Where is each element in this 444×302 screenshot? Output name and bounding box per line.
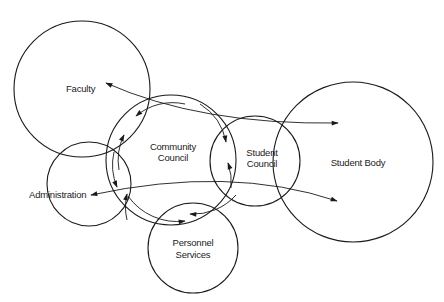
organization-diagram: Faculty Community Council Student Counci… bbox=[0, 0, 444, 302]
community-label: Community bbox=[150, 141, 197, 152]
administration-label: Administration bbox=[29, 189, 86, 200]
cc-to-administration-arrow bbox=[113, 152, 117, 187]
student-label: Student bbox=[246, 147, 278, 158]
community-council-label: Council bbox=[158, 152, 188, 163]
student-body-label: Student Body bbox=[331, 157, 386, 168]
faculty-label: Faculty bbox=[66, 83, 96, 94]
administration-student-body-arrow bbox=[91, 181, 337, 201]
services-label: Services bbox=[176, 249, 211, 260]
personnel-label: Personnel bbox=[173, 237, 214, 248]
student-council-label: Council bbox=[247, 158, 277, 169]
cc-up-left-arrow bbox=[118, 135, 124, 170]
cc-to-personnel-arrow bbox=[128, 196, 185, 222]
cc-to-faculty-arrow bbox=[136, 103, 185, 116]
personnel-services-circle bbox=[148, 203, 238, 293]
